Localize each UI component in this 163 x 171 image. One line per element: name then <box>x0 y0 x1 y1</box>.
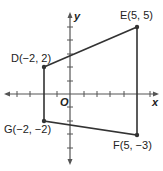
x-axis-left-arrow-icon <box>4 92 10 97</box>
quadrilateral-DEFG <box>44 27 137 135</box>
x-axis <box>4 91 159 97</box>
y-axis <box>67 12 73 165</box>
x-axis-label: x <box>151 96 159 108</box>
y-axis-label: y <box>73 10 81 22</box>
label-E: E(5, 5) <box>120 9 153 21</box>
coordinate-plane: y x O E(5, 5) D(−2, 2) G(−2, −2) F(5, −3… <box>0 0 163 171</box>
y-axis-down-arrow-icon <box>68 159 73 165</box>
origin-label: O <box>60 96 69 108</box>
y-axis-up-arrow-icon <box>68 12 73 18</box>
label-D: D(−2, 2) <box>11 52 51 64</box>
label-G: G(−2, −2) <box>4 123 51 135</box>
vertex-E <box>135 25 139 29</box>
label-F: F(5, −3) <box>113 139 152 151</box>
vertex-D <box>42 65 46 69</box>
vertex-F <box>135 133 139 137</box>
